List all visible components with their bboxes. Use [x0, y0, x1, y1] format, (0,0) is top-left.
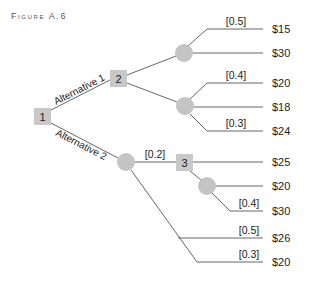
payoff-label: $26 — [272, 232, 290, 244]
prob-label: [0.4] — [239, 197, 260, 209]
chance-node-after-3 — [198, 177, 216, 195]
payoff-label: $15 — [272, 23, 290, 35]
prob-label: [0.3] — [226, 117, 247, 129]
prob-label: [0.2] — [145, 148, 166, 160]
decision-node-1: 1 — [34, 108, 51, 125]
prob-label: [0.5] — [239, 224, 260, 236]
decision-node-3: 3 — [176, 154, 193, 171]
chance-node-alt2 — [117, 153, 135, 171]
payoff-label: $18 — [272, 101, 290, 113]
payoff-label: $20 — [272, 77, 290, 89]
payoff-label: $25 — [272, 156, 290, 168]
node-3-label: 3 — [181, 157, 187, 169]
chance-node-lower — [176, 97, 194, 115]
payoff-label: $20 — [272, 180, 290, 192]
node-1-label: 1 — [39, 111, 45, 123]
payoff-label: $24 — [272, 125, 290, 137]
edge-2-to-chance-upper — [127, 56, 176, 75]
edge-outcome-20a — [190, 83, 263, 99]
payoff-label: $30 — [272, 47, 290, 59]
payoff-label: $30 — [272, 205, 290, 217]
alternative-1-label: Alternative 1 — [52, 72, 107, 107]
node-2-label: 2 — [115, 73, 121, 85]
edge-outcome-15 — [188, 29, 263, 46]
prob-label: [0.5] — [226, 15, 247, 27]
decision-node-2: 2 — [110, 70, 127, 87]
prob-label: [0.4] — [226, 69, 247, 81]
alternative-2-label: Alternative 2 — [54, 127, 109, 162]
decision-tree: 1 2 3 Alternative 1 Alternative 2 [0.5] … — [0, 0, 309, 282]
payoff-label: $20 — [272, 256, 290, 268]
chance-node-upper — [175, 44, 193, 62]
prob-label: [0.3] — [239, 248, 260, 260]
edge-3-to-chance — [190, 171, 201, 180]
edge-2-to-chance-lower — [127, 83, 177, 102]
